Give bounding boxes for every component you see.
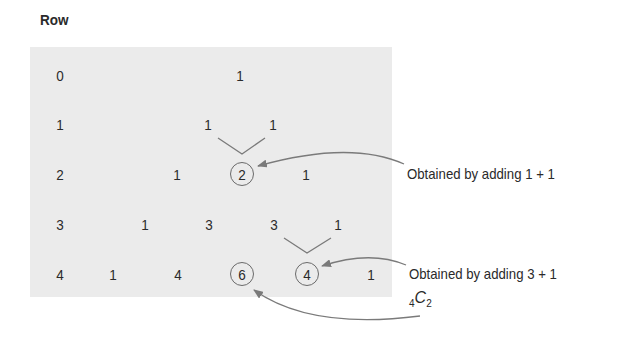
combination-label: 4C2 — [409, 290, 432, 309]
combination-letter: C — [415, 289, 427, 306]
arrow-icon — [322, 258, 406, 266]
sum-bracket-icon — [218, 138, 265, 154]
arrow-icon — [258, 152, 404, 166]
annotation-add-3-1: Obtained by adding 3 + 1 — [409, 266, 557, 281]
sum-bracket-icon — [284, 238, 331, 253]
annotation-add-1-1: Obtained by adding 1 + 1 — [407, 166, 555, 181]
arrow-icon — [254, 290, 420, 320]
combination-k: 2 — [426, 298, 432, 309]
